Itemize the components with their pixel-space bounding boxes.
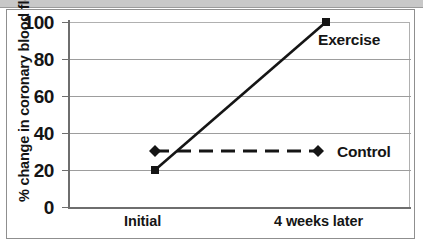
series-label-exercise: Exercise [318,31,380,49]
x-tick-label-4-weeks-later: 4 weeks later [274,213,363,229]
x-tick-label-initial: Initial [124,213,161,229]
exercise-line [155,22,326,170]
chart-figure: 100 80 60 40 20 0 % change in coronary b… [0,0,423,248]
control-marker-4weeks [312,145,324,157]
exercise-marker-initial [151,166,159,174]
control-marker-initial [149,145,161,157]
series-label-control: Control [337,143,391,161]
exercise-marker-4weeks [322,18,330,26]
